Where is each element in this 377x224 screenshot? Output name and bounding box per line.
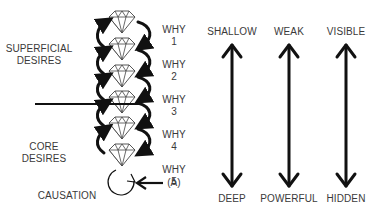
double-headed-arrow-icon (223, 45, 241, 186)
double-headed-arrow-icon (337, 45, 355, 186)
curved-arrow-icon (138, 103, 150, 125)
causation-label: CAUSATION (34, 190, 100, 202)
pointer-label: (A) (163, 177, 185, 189)
scale-bottom-label-deep: DEEP (202, 193, 262, 205)
scale-bottom-label-powerful: POWERFUL (254, 193, 324, 205)
curved-arrow-icon (138, 22, 150, 46)
scale-arrows (223, 45, 355, 186)
curved-arrow-icon (97, 103, 106, 126)
diamond-icon (109, 65, 135, 87)
scale-bottom-label-hidden: HIDDEN (316, 193, 376, 205)
curved-arrows-left (97, 22, 106, 153)
scale-top-label-weak: WEAK (259, 26, 319, 38)
curved-arrow-icon (97, 129, 106, 153)
diamond-stack (109, 11, 135, 166)
causation-loop-icon (108, 170, 134, 195)
diamond-icon (109, 117, 135, 139)
diamond-icon (109, 91, 135, 113)
curved-arrows-right (138, 22, 150, 152)
curved-arrow-icon (97, 50, 106, 74)
scale-top-label-visible: VISIBLE (316, 26, 376, 38)
curved-arrow-icon (97, 22, 106, 47)
superficial-desires-label: SUPERFICIAL DESIRES (4, 43, 74, 67)
scale-top-label-shallow: SHALLOW (202, 26, 262, 38)
why-label-4: WHY4 (160, 129, 188, 153)
curved-arrow-icon (138, 77, 150, 99)
diamond-icon (109, 11, 135, 33)
core-desires-label: CORE DESIRES (14, 141, 74, 165)
curved-arrow-icon (138, 50, 150, 73)
double-headed-arrow-icon (280, 45, 298, 186)
why-label-2: WHY2 (160, 59, 188, 83)
why-label-3: WHY3 (160, 94, 188, 118)
curved-arrow-icon (138, 129, 150, 152)
diamond-icon (109, 144, 135, 166)
curved-arrow-icon (97, 77, 106, 100)
why-label-1: WHY1 (160, 24, 188, 48)
diamond-icon (109, 38, 135, 60)
